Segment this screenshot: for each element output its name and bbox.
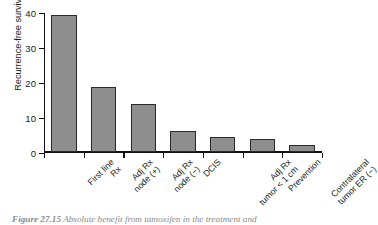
y-tick-label-10: 10 <box>25 113 36 124</box>
x-axis-label-line1: DCIS <box>201 157 223 179</box>
figure-number: Figure 27.15 <box>12 214 61 224</box>
y-axis-line <box>44 13 45 153</box>
x-axis-label-group: First lineRxAdj Rxnode (+)Adj Rxnode (−)… <box>44 153 322 215</box>
figure-caption-text: Absolute benefit from tamoxifen in the t… <box>63 214 257 224</box>
x-axis-label-3: DCIS <box>201 157 223 179</box>
y-tick-40: 40 <box>39 13 44 14</box>
bar-5 <box>250 139 275 152</box>
bar-4 <box>210 137 235 152</box>
figure-caption: Figure 27.15 Absolute benefit from tamox… <box>12 214 328 224</box>
bar-1 <box>91 87 116 152</box>
plot-area: 010203040 <box>44 13 322 153</box>
y-tick-10: 10 <box>39 118 44 119</box>
x-axis-label-0: First lineRx <box>85 157 122 194</box>
y-tick-label-20: 20 <box>25 78 36 89</box>
y-tick-label-30: 30 <box>25 43 36 54</box>
x-axis-label-6: Contralateraltumor ER (−) <box>329 157 378 206</box>
y-tick-20: 20 <box>39 83 44 84</box>
x-axis-label-2: Adj Rxnode (−) <box>165 157 202 194</box>
y-axis-title: Recurrence-free survival (%) <box>13 0 23 103</box>
bar-6 <box>289 145 314 152</box>
bar-3 <box>170 131 195 152</box>
y-tick-30: 30 <box>39 48 44 49</box>
y-tick-label-0: 0 <box>31 148 36 159</box>
bar-2 <box>131 104 156 152</box>
x-tick-7 <box>322 153 323 158</box>
y-tick-label-40: 40 <box>25 8 36 19</box>
x-axis-label-1: Adj Rxnode (+) <box>125 157 162 194</box>
bar-0 <box>51 15 76 152</box>
